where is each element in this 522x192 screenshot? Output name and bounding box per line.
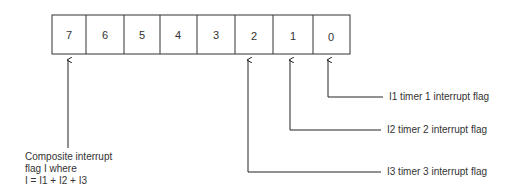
composite-line-2: flag I where — [25, 163, 112, 175]
composite-line-3: I = I1 + I2 + I3 — [25, 175, 112, 187]
bit-numbers: 7 6 5 4 3 2 1 0 — [66, 29, 334, 43]
register-box — [52, 15, 350, 54]
bit-6: 6 — [102, 29, 108, 41]
label-i3: I3 timer 3 interrupt flag — [387, 166, 487, 178]
composite-line-1: Composite interrupt — [25, 151, 112, 163]
label-i2: I2 timer 2 interrupt flag — [387, 124, 487, 136]
bit-3: 3 — [213, 29, 219, 41]
bit-7: 7 — [66, 29, 72, 41]
bit-0: 0 — [328, 31, 334, 43]
bit-5: 5 — [139, 29, 145, 41]
bit-1: 1 — [290, 30, 296, 42]
label-composite: Composite interrupt flag I where I = I1 … — [25, 151, 112, 187]
register-diagram: 7 6 5 4 3 2 1 0 I1 timer 1 interrupt fla… — [0, 0, 522, 192]
label-i1: I1 timer 1 interrupt flag — [389, 91, 489, 103]
bit-2: 2 — [251, 30, 257, 42]
bit-4: 4 — [175, 29, 181, 41]
